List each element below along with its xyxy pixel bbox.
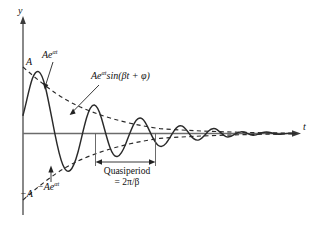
upper-envelope-leader-line: [46, 62, 54, 86]
damped-sine-rest: sin(βt + φ): [107, 70, 150, 81]
t-axis-label: t: [303, 122, 306, 132]
damped-sine-label: Aeαtsin(βt + φ): [91, 71, 150, 81]
amplitude-positive-text: A: [26, 56, 32, 67]
y-axis-label: y: [18, 6, 22, 16]
quasiperiod-label: Quasiperiod = 2π/β: [98, 167, 156, 187]
upper-envelope-leader-arrow-icon: [43, 82, 49, 89]
amplitude-positive-label: A: [26, 57, 32, 67]
quasiperiod-arrow-right-icon: [149, 159, 156, 164]
y-axis-label-text: y: [18, 5, 22, 16]
lower-envelope-exponent: αt: [54, 180, 59, 187]
plot-canvas: [0, 0, 315, 236]
amplitude-negative-text: −A: [20, 188, 33, 199]
lower-envelope-leader-arrow-icon: [48, 166, 53, 173]
quasiperiod-title: Quasiperiod: [104, 166, 150, 176]
upper-envelope-exponent: αt: [53, 48, 58, 55]
curve-leader-line: [73, 85, 100, 112]
t-axis-label-text: t: [303, 121, 306, 132]
upper-envelope-curve: [23, 67, 296, 133]
upper-envelope-label: Aeαt: [42, 50, 58, 60]
damped-sine-base: Ae: [91, 70, 102, 81]
lower-envelope-base: −Ae: [37, 181, 54, 192]
damped-oscillation-figure: y t A −A Aeαt −Aeαt Aeαtsin(βt + φ) Quas…: [0, 0, 315, 236]
quasiperiod-value: = 2π/β: [98, 178, 156, 188]
lower-envelope-label: −Aeαt: [37, 182, 59, 192]
amplitude-negative-label: −A: [20, 189, 33, 199]
damped-sine-curve: [23, 71, 295, 171]
quasiperiod-arrow-left-icon: [96, 159, 103, 164]
y-axis-arrow-icon: [20, 16, 26, 24]
upper-envelope-base: Ae: [42, 49, 53, 60]
